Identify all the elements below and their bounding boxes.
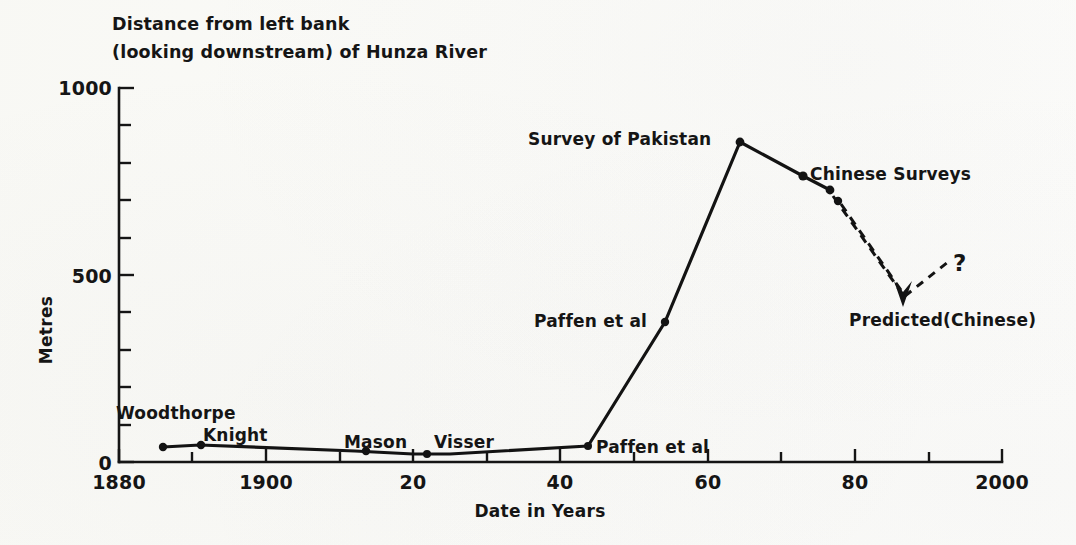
- x-tick-label-2000: 2000: [975, 471, 1029, 493]
- hunza-river-distance-chart: Distance from left bank (looking downstr…: [0, 0, 1076, 545]
- uncertainty-branch-line: [905, 262, 948, 296]
- marker-visser: [423, 450, 431, 458]
- annotation-predicted-chinese: Predicted(Chinese): [849, 310, 1036, 330]
- predicted-lower-bound-line: [841, 204, 905, 296]
- x-tick-label-1960: 60: [695, 471, 722, 493]
- marker-paffen-lower: [584, 442, 592, 450]
- annotation-woodthorpe: Woodthorpe: [116, 403, 236, 423]
- annotation-paffen-upper: Paffen et al: [534, 311, 647, 331]
- y-tick-label-500: 500: [72, 265, 112, 287]
- annotation-visser: Visser: [434, 432, 494, 452]
- data-point-markers: [159, 138, 842, 458]
- annotation-paffen-lower: Paffen et al: [596, 437, 709, 457]
- marker-woodthorpe: [159, 443, 167, 451]
- marker-chinese-survey-1: [798, 171, 807, 180]
- y-tick-label-1000: 1000: [58, 77, 112, 99]
- annotation-chinese-surveys: Chinese Surveys: [810, 164, 971, 184]
- annotation-survey-of-pakistan: Survey of Pakistan: [528, 129, 711, 149]
- marker-survey-of-pakistan: [736, 138, 745, 147]
- x-axis-title: Date in Years: [474, 501, 605, 521]
- x-tick-label-1900: 1900: [239, 471, 293, 493]
- x-tick-label-1940: 40: [547, 471, 574, 493]
- marker-paffen-upper: [661, 318, 669, 326]
- x-tick-label-1880: 1880: [92, 471, 146, 493]
- surveyed-channel-line: [163, 142, 830, 454]
- uncertainty-question-mark: ?: [953, 250, 966, 276]
- chart-title-line-1: Distance from left bank: [112, 14, 350, 34]
- x-tick-label-1980: 80: [842, 471, 869, 493]
- chart-title-line-2: (looking downstream) of Hunza River: [112, 42, 487, 62]
- figure-canvas: Distance from left bank (looking downstr…: [0, 0, 1076, 545]
- annotation-knight: Knight: [203, 425, 268, 445]
- x-axis-major-ticks: [119, 449, 1002, 462]
- annotation-mason: Mason: [344, 432, 407, 452]
- y-axis-title: Metres: [36, 296, 56, 364]
- x-tick-label-1920: 20: [400, 471, 427, 493]
- marker-chinese-survey-2: [826, 186, 835, 195]
